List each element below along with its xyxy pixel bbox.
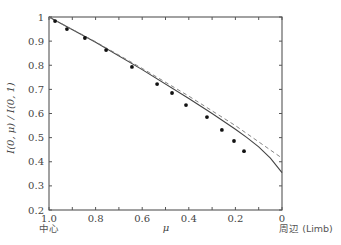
- data-point: [130, 65, 134, 69]
- observed-points: [53, 19, 246, 153]
- x-tick-label: 0.2: [227, 213, 243, 224]
- plot-border: [49, 17, 282, 210]
- y-tick-label: 0.8: [28, 60, 44, 71]
- y-tick-label: 0.9: [28, 36, 44, 47]
- limb-label: 周辺 (Limb): [279, 223, 333, 234]
- solid-model-line: [49, 17, 282, 173]
- data-point: [205, 115, 209, 119]
- y-tick-label: 0.4: [28, 156, 44, 167]
- data-point: [104, 48, 108, 52]
- plot-frame: [49, 17, 282, 210]
- data-point: [232, 139, 236, 143]
- y-tick-label: 0.6: [28, 108, 44, 119]
- y-axis-ticks: 0.20.30.40.50.60.70.80.91: [28, 12, 282, 216]
- center-label: 中心: [39, 223, 59, 234]
- data-point: [155, 82, 159, 86]
- limb-darkening-chart: I(0, μ) / I(0, 1) 0.20.30.40.50.60.70.80…: [0, 0, 341, 245]
- y-tick-label: 0.5: [28, 132, 44, 143]
- y-axis-title: I(0, μ) / I(0, 1): [5, 82, 16, 155]
- y-tick-label: 1: [38, 12, 44, 23]
- x-axis-ticks: 1.00.80.60.40.20: [41, 17, 285, 224]
- data-point: [170, 91, 174, 95]
- x-tick-label: 0.8: [88, 213, 104, 224]
- data-point: [242, 149, 246, 153]
- data-point: [184, 103, 188, 107]
- data-point: [220, 128, 224, 132]
- x-tick-label: 0.4: [181, 213, 197, 224]
- x-axis-title: μ: [163, 222, 170, 233]
- data-point: [83, 36, 87, 40]
- y-tick-label: 0.7: [28, 84, 44, 95]
- y-tick-label: 0.3: [28, 180, 44, 191]
- model-curves: [49, 17, 282, 173]
- data-point: [53, 19, 57, 23]
- data-point: [65, 27, 69, 31]
- y-axis-label: I(0, μ) / I(0, 1): [5, 82, 16, 155]
- x-tick-label: 0.6: [134, 213, 150, 224]
